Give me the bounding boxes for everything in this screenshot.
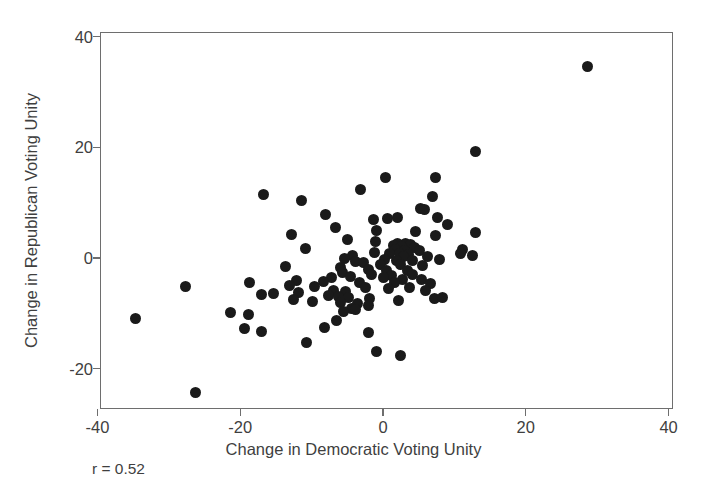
correlation-annotation: r = 0.52: [92, 460, 145, 478]
x-axis-tick: [382, 409, 383, 416]
x-axis-tick: [668, 409, 669, 416]
x-axis-title: Change in Democratic Voting Unity: [0, 440, 707, 459]
y-axis-tick-label: 0: [84, 249, 93, 268]
y-axis-tick-label: 20: [75, 138, 93, 157]
y-axis-tick-label: -20: [69, 359, 93, 378]
x-axis-tick-label: 40: [659, 418, 677, 437]
y-axis-title: Change in Republican Voting Unity: [16, 32, 46, 409]
y-axis-tick: [93, 368, 100, 369]
x-axis-tick: [525, 409, 526, 416]
y-axis-tick-label: 40: [75, 27, 93, 46]
x-axis-tick-label: -40: [85, 418, 109, 437]
plot-area-frame: [100, 32, 673, 409]
scatter-plot-figure: -40-2002040-2002040 Change in Democratic…: [0, 0, 707, 497]
x-axis-tick-label: 0: [378, 418, 387, 437]
x-axis-tick-label: 20: [517, 418, 535, 437]
x-axis-tick: [240, 409, 241, 416]
y-axis-tick: [93, 147, 100, 148]
x-axis-tick-label: -20: [228, 418, 252, 437]
y-axis-tick: [93, 257, 100, 258]
x-axis-tick: [97, 409, 98, 416]
y-axis-tick: [93, 36, 100, 37]
